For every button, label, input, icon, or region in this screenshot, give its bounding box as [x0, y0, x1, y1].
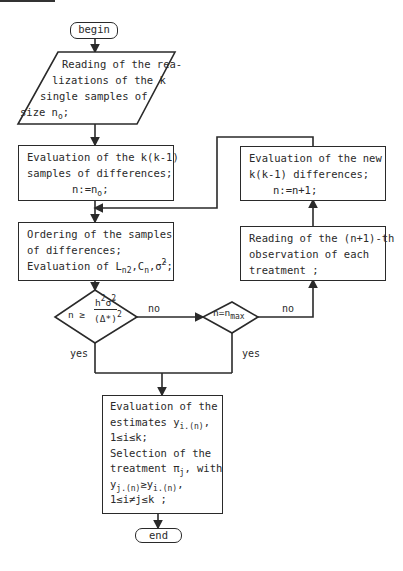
final-line-2: estimates yi.(n),: [110, 415, 215, 431]
decision1-lhs: n ≥: [68, 309, 85, 321]
input-line-1: Reading of the rea-: [38, 56, 178, 72]
read-next-line-2: observation of each: [249, 246, 377, 262]
eval-new-differences-box: Evaluation of the new k(k-1) differences…: [240, 146, 386, 201]
final-line-7: 1≤i≠j≤k ;: [110, 492, 215, 508]
decision1-numerator: h2σ̂2: [94, 297, 117, 310]
eval-new-line-1: Evaluation of the new: [249, 150, 377, 166]
read-next-line-3: treatment ;: [249, 262, 377, 278]
eval-differences-box: Evaluation of the k(k-1) samples of diff…: [18, 145, 174, 201]
read-next-line-1: Reading of the (n+1)-th: [249, 230, 377, 246]
eval-new-line-2: k(k-1) differences;: [249, 166, 377, 182]
begin-label: begin: [78, 23, 110, 35]
begin-terminal: begin: [70, 22, 118, 39]
input-line-4: size no;: [20, 104, 178, 120]
decision-max-n: n=nmax: [213, 307, 245, 319]
eval-new-line-3: n:=n+1;: [249, 182, 377, 198]
eval-diff-line-2: samples of differences;: [27, 165, 165, 181]
selection-box: Evaluation of the estimates yi.(n), 1≤i≤…: [102, 395, 223, 514]
decision1-denominator: (Δ*)2: [94, 313, 122, 325]
decision1-no-label: no: [148, 303, 160, 314]
ordering-line-3: Evaluation of Ln2,Cn,σ̂2;: [27, 258, 165, 274]
eval-diff-line-1: Evaluation of the k(k-1): [27, 149, 165, 165]
eval-diff-line-3: n:=no;: [27, 181, 165, 197]
input-line-2: lizations of the k: [38, 72, 178, 88]
final-line-3: 1≤i≤k;: [110, 430, 215, 446]
final-line-4: Selection of the: [110, 446, 215, 462]
final-line-5: treatment πj, with: [110, 461, 215, 477]
read-next-observation-box: Reading of the (n+1)-th observation of e…: [240, 226, 386, 281]
ordering-line-1: Ordering of the samples: [27, 226, 165, 242]
ordering-line-2: of differences;: [27, 242, 165, 258]
end-label: end: [149, 529, 168, 541]
ordering-box: Ordering of the samples of differences; …: [18, 222, 174, 281]
decision2-yes-label: yes: [242, 348, 260, 359]
final-line-1: Evaluation of the: [110, 399, 215, 415]
decision1-yes-label: yes: [70, 348, 88, 359]
input-block: Reading of the rea- lizations of the k s…: [38, 56, 178, 120]
end-terminal: end: [135, 528, 182, 543]
input-line-3: single samples of: [38, 88, 178, 104]
decision2-no-label: no: [282, 303, 294, 314]
final-line-6: yj.(n)≥yi.(n),: [110, 477, 215, 493]
